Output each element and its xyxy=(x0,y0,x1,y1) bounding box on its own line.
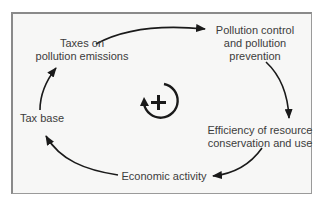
node-tax-base: Tax base xyxy=(16,112,68,125)
arrow-pollution-control-to-efficiency xyxy=(266,62,289,118)
arrow-economic-activity-to-tax-base xyxy=(46,136,118,175)
node-taxes: Taxes on pollution emissions xyxy=(34,37,130,63)
node-efficiency: Efficiency of resource conservation and … xyxy=(200,124,320,150)
arrow-tax-base-to-taxes xyxy=(40,68,56,110)
reinforcing-loop-icon xyxy=(140,84,178,118)
node-economic-activity: Economic activity xyxy=(116,170,212,183)
node-pollution-control: Pollution control and pollution preventi… xyxy=(205,24,305,63)
arrow-efficiency-to-economic-activity xyxy=(213,148,262,176)
